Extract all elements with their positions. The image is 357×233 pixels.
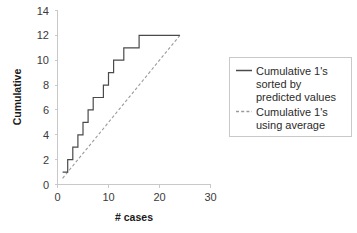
chart-legend: Cumulative 1's sorted by predicted value… (230, 58, 352, 137)
legend-entry-0-line1: Cumulative 1's (256, 65, 328, 77)
x-tick-label: 10 (102, 191, 114, 203)
legend-entry-0-line3: predicted values (256, 91, 337, 103)
y-tick-label: 6 (43, 104, 49, 116)
y-tick-label: 12 (37, 29, 49, 41)
legend-entry-0-line2: sorted by (256, 78, 302, 90)
y-tick-label: 4 (43, 129, 49, 141)
series-cumulative-average-line (63, 35, 180, 178)
y-tick-label: 8 (43, 79, 49, 91)
y-tick-labels: 14 12 10 8 6 4 2 0 (37, 5, 49, 191)
plot-axes (58, 11, 211, 185)
legend-entry-1-line2: using average (256, 119, 325, 131)
y-tick-label: 14 (37, 5, 49, 17)
legend-entry-1-line1: Cumulative 1's (256, 106, 328, 118)
y-tick-label: 0 (43, 179, 49, 191)
series-cumulative-sorted-line (63, 35, 180, 172)
y-tick-label: 10 (37, 54, 49, 66)
cumulative-gains-chart: 14 12 10 8 6 4 2 0 0 10 20 30 # cases Cu… (0, 0, 357, 233)
x-tick-label: 30 (204, 191, 216, 203)
x-tick-labels: 0 10 20 30 (54, 191, 216, 203)
y-axis-title: Cumulative (11, 69, 23, 126)
y-tick-label: 2 (43, 154, 49, 166)
x-tick-label: 20 (153, 191, 165, 203)
x-axis-title: # cases (115, 211, 153, 223)
chart-canvas: 14 12 10 8 6 4 2 0 0 10 20 30 # cases Cu… (0, 0, 357, 233)
x-tick-label: 0 (54, 191, 60, 203)
